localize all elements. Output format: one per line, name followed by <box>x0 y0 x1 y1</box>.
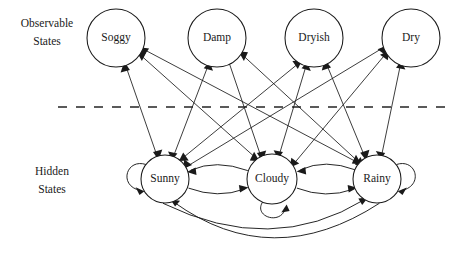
node-dryish[interactable]: Dryish <box>285 9 343 67</box>
node-label-rainy: Rainy <box>363 172 391 185</box>
hidden-states-group: Sunny Cloudy Rainy <box>141 154 401 204</box>
transition-edge-cloudy-to-rainy <box>297 185 357 194</box>
hidden-row-label-line1: Hidden <box>35 165 69 177</box>
node-label-soggy: Soggy <box>101 31 131 44</box>
node-label-dry: Dry <box>402 31 420 44</box>
node-damp[interactable]: Damp <box>188 9 246 67</box>
emission-edge-sunny-soggy <box>121 62 163 161</box>
transition-edge-cloudy-to-sunny <box>187 165 248 175</box>
node-sunny[interactable]: Sunny <box>141 155 189 203</box>
hmm-diagram-canvas: Soggy Damp Dryish Dry Sunny C <box>0 0 459 264</box>
node-dry[interactable]: Dry <box>382 9 440 67</box>
node-label-damp: Damp <box>203 31 231 44</box>
node-label-cloudy: Cloudy <box>255 172 289 185</box>
observable-row-label-line1: Observable <box>21 17 73 29</box>
emission-edge-sunny-dryish <box>179 60 302 161</box>
hmm-diagram: Soggy Damp Dryish Dry Sunny C <box>0 0 459 264</box>
transition-edge-sunny-to-cloudy <box>189 185 249 194</box>
emission-edge-sunny-damp <box>168 62 213 160</box>
transition-edge-rainy-to-cloudy <box>297 164 356 174</box>
emission-edge-rainy-dryish <box>322 60 370 161</box>
observable-row-label: Observable States <box>21 17 73 47</box>
node-label-dryish: Dryish <box>298 31 330 44</box>
node-soggy[interactable]: Soggy <box>87 9 145 67</box>
hidden-row-label-line2: States <box>38 183 66 195</box>
node-label-sunny: Sunny <box>150 172 180 185</box>
observable-row-label-line2: States <box>33 35 61 47</box>
hidden-row-label: Hidden States <box>35 165 69 195</box>
node-cloudy[interactable]: Cloudy <box>247 154 297 204</box>
node-rainy[interactable]: Rainy <box>353 155 401 203</box>
emission-edge-rainy-dry <box>376 61 406 159</box>
